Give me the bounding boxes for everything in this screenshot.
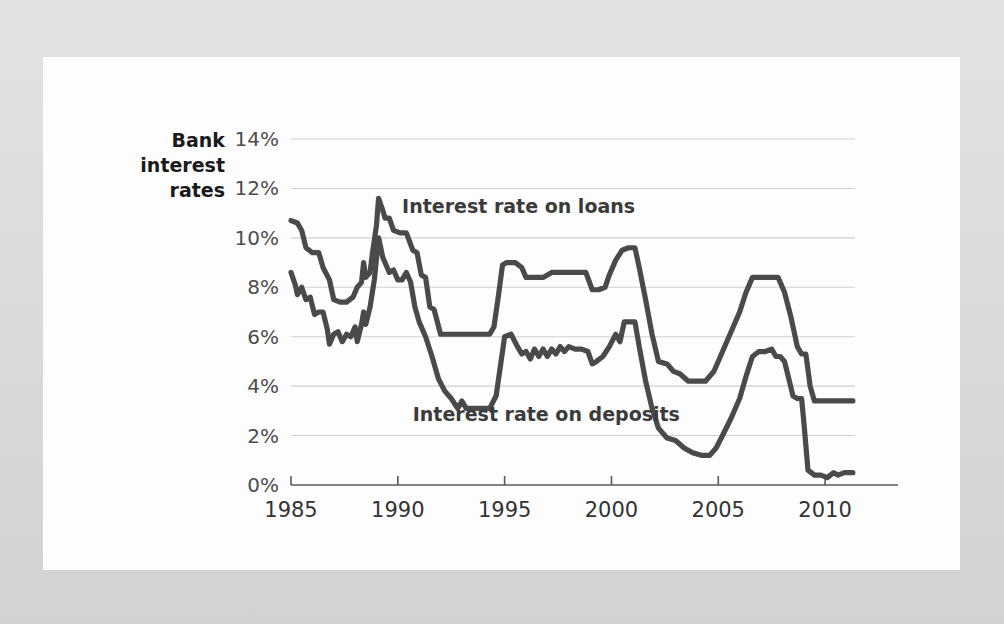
line-chart: 0%2%4%6%8%10%12%14% 19851990199520002005… xyxy=(43,57,960,570)
axis-title-line-1: Bank xyxy=(172,129,226,151)
y-tick-label-0%: 0% xyxy=(247,473,279,497)
chart-area: 0%2%4%6%8%10%12%14% 19851990199520002005… xyxy=(43,57,960,570)
x-axis-tick-labels: 198519901995200020052010 xyxy=(264,498,852,522)
axis-title-line-2: interest xyxy=(140,154,225,176)
chart-card: 0%2%4%6%8%10%12%14% 19851990199520002005… xyxy=(43,57,960,570)
y-tick-label-4%: 4% xyxy=(247,374,279,398)
x-tick-label-2005: 2005 xyxy=(692,498,745,522)
y-tick-label-2%: 2% xyxy=(247,424,279,448)
y-tick-label-10%: 10% xyxy=(235,226,279,250)
annotation-2: Interest rate on deposits xyxy=(413,403,680,425)
y-tick-label-14%: 14% xyxy=(235,127,279,151)
x-tick-label-2010: 2010 xyxy=(798,498,851,522)
x-tick-label-1995: 1995 xyxy=(478,498,531,522)
x-tick-label-1985: 1985 xyxy=(264,498,317,522)
y-tick-label-12%: 12% xyxy=(235,176,279,200)
screenshot-root: 0%2%4%6%8%10%12%14% 19851990199520002005… xyxy=(0,0,1004,624)
axis-title: Bank interest rates xyxy=(140,129,225,201)
series-line-1 xyxy=(291,198,853,401)
x-axis xyxy=(291,476,898,485)
x-tick-label-1990: 1990 xyxy=(371,498,424,522)
axis-title-line-3: rates xyxy=(170,179,225,201)
y-tick-label-8%: 8% xyxy=(247,275,279,299)
x-tick-label-2000: 2000 xyxy=(585,498,638,522)
y-tick-label-6%: 6% xyxy=(247,325,279,349)
annotation-1: Interest rate on loans xyxy=(402,195,635,217)
y-axis-tick-labels: 0%2%4%6%8%10%12%14% xyxy=(235,127,279,497)
